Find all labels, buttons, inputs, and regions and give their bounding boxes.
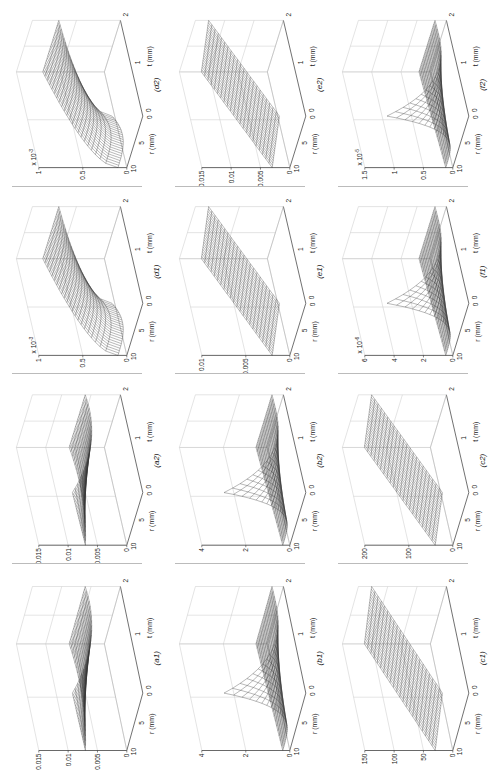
- svg-text:10: 10: [293, 165, 300, 173]
- svg-text:0: 0: [309, 692, 316, 696]
- svg-text:0: 0: [146, 302, 153, 306]
- svg-text:1: 1: [35, 170, 42, 174]
- svg-text:5: 5: [464, 518, 471, 522]
- svg-text:10: 10: [293, 352, 300, 360]
- svg-text:5: 5: [138, 721, 145, 725]
- svg-text:r (mm): r (mm): [148, 134, 156, 155]
- svg-text:2: 2: [448, 12, 455, 16]
- svg-text:1.5: 1.5: [361, 170, 368, 179]
- svg-text:t (mm): t (mm): [472, 46, 480, 66]
- svg-text:1: 1: [134, 632, 141, 636]
- svg-text:5: 5: [138, 518, 145, 522]
- row-divider: [338, 563, 468, 564]
- svg-text:10: 10: [456, 165, 463, 173]
- svg-text:2: 2: [122, 199, 129, 203]
- svg-text:100: 100: [391, 753, 398, 764]
- svg-text:t (mm): t (mm): [146, 422, 154, 442]
- svg-text:10: 10: [293, 748, 300, 756]
- panel-label: (b1): [315, 651, 324, 666]
- svg-text:r (mm): r (mm): [311, 134, 319, 155]
- svg-text:r (mm): r (mm): [474, 511, 482, 532]
- svg-text:t (mm): t (mm): [146, 233, 154, 253]
- surface-plot-e1: 00.0050.011050012r (mm)t (mm)ΔK_my-uy (N…: [165, 188, 325, 374]
- svg-text:0: 0: [472, 692, 479, 696]
- svg-text:5: 5: [301, 328, 308, 332]
- svg-text:5: 5: [138, 328, 145, 332]
- svg-text:0.01: 0.01: [65, 753, 72, 766]
- svg-text:0: 0: [146, 692, 153, 696]
- svg-text:t (mm): t (mm): [309, 422, 317, 442]
- svg-text:t (mm): t (mm): [472, 618, 480, 638]
- svg-text:4: 4: [198, 753, 205, 757]
- row-divider: [175, 186, 305, 187]
- surface-plot-d2: 00.51x 10-31050012r (mm)t (mm)ΔK_mx-ux (…: [2, 2, 162, 186]
- svg-text:x 10-5: x 10-5: [354, 149, 363, 166]
- svg-text:1: 1: [297, 247, 304, 251]
- svg-text:0.01: 0.01: [198, 358, 205, 371]
- surface-plot-b1: 0241050012r (mm)t (mm)ΔK_fy-uy (N/μm)(b1…: [165, 566, 325, 771]
- svg-text:0.015: 0.015: [198, 170, 205, 186]
- svg-text:r (mm): r (mm): [148, 713, 156, 734]
- surface-plot-a2: 00.0050.010.0151050012r (mm)t (mm)ΔK_fx-…: [2, 376, 162, 564]
- svg-text:r (mm): r (mm): [311, 713, 319, 734]
- panel-label: (d2): [152, 77, 161, 92]
- svg-text:0.5: 0.5: [420, 170, 427, 179]
- svg-text:0: 0: [145, 108, 152, 112]
- svg-text:0: 0: [471, 685, 478, 689]
- svg-text:10: 10: [130, 748, 137, 756]
- svg-text:0.015: 0.015: [35, 753, 42, 770]
- svg-text:1: 1: [391, 170, 398, 174]
- svg-text:t (mm): t (mm): [309, 46, 317, 66]
- svg-text:0: 0: [308, 295, 315, 299]
- surface-plot-f1: 0246x 10-61050012r (mm)t (mm)ΔK_mz-uz (N…: [328, 188, 488, 374]
- svg-text:0: 0: [308, 485, 315, 489]
- panel-label: (f1): [478, 265, 487, 277]
- svg-text:2: 2: [242, 753, 249, 757]
- svg-text:2: 2: [122, 387, 129, 391]
- svg-text:0: 0: [472, 115, 479, 119]
- svg-text:10: 10: [130, 542, 137, 550]
- svg-text:5: 5: [301, 518, 308, 522]
- panel-label: (c2): [478, 453, 487, 467]
- svg-text:2: 2: [448, 199, 455, 203]
- surface-plot-e2: 00.0050.010.0151050012r (mm)t (mm)ΔK_my-…: [165, 2, 325, 186]
- panel-label: (f2): [478, 78, 487, 90]
- surface-plot-b2: 0241050012r (mm)t (mm)ΔK_fy-uy (N/μm)(b2…: [165, 376, 325, 564]
- svg-text:0: 0: [471, 295, 478, 299]
- svg-text:5: 5: [138, 141, 145, 145]
- svg-text:10: 10: [456, 748, 463, 756]
- svg-text:0.005: 0.005: [94, 548, 101, 564]
- svg-text:r (mm): r (mm): [148, 321, 156, 342]
- svg-text:0: 0: [308, 108, 315, 112]
- svg-text:0: 0: [146, 491, 153, 495]
- panel-label: (e2): [315, 77, 324, 92]
- svg-text:0.015: 0.015: [35, 548, 42, 564]
- svg-text:1: 1: [134, 60, 141, 64]
- svg-text:2: 2: [285, 199, 292, 203]
- svg-text:0.01: 0.01: [228, 170, 235, 183]
- row-divider: [12, 563, 142, 564]
- svg-text:t (mm): t (mm): [146, 46, 154, 66]
- svg-text:1: 1: [134, 436, 141, 440]
- svg-text:2: 2: [420, 358, 427, 362]
- surface-plot-c2: 01002001050012r (mm)t (mm)ΔK_fz-uz (N/μm…: [328, 376, 488, 564]
- svg-text:2: 2: [122, 12, 129, 16]
- svg-text:r (mm): r (mm): [311, 511, 319, 532]
- row-divider: [12, 373, 142, 374]
- svg-text:0: 0: [472, 302, 479, 306]
- svg-text:1: 1: [460, 247, 467, 251]
- svg-text:t (mm): t (mm): [309, 618, 317, 638]
- row-divider: [12, 186, 142, 187]
- svg-text:1: 1: [297, 436, 304, 440]
- svg-text:0: 0: [471, 108, 478, 112]
- svg-text:0: 0: [145, 685, 152, 689]
- svg-text:x 10-3: x 10-3: [28, 336, 37, 353]
- svg-text:4: 4: [198, 548, 205, 552]
- svg-text:r (mm): r (mm): [474, 134, 482, 155]
- svg-text:6: 6: [361, 358, 368, 362]
- svg-text:r (mm): r (mm): [474, 321, 482, 342]
- svg-text:1: 1: [35, 358, 42, 362]
- row-divider: [338, 186, 468, 187]
- surface-plot-d1: 00.51x 10-31050012r (mm)t (mm)ΔK_mx-ux (…: [2, 188, 162, 374]
- svg-text:4: 4: [391, 358, 398, 362]
